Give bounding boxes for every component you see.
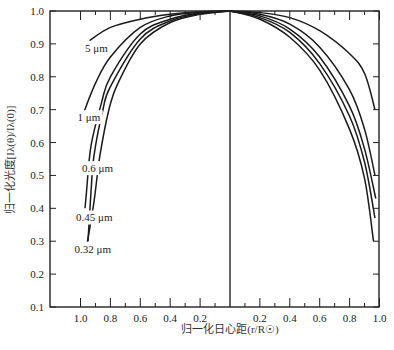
curve-label-group: 0.6 μm [80, 161, 115, 175]
x-tick-label-right: 1.0 [373, 312, 387, 324]
x-tick-label-left: 0.8 [104, 312, 118, 324]
x-tick-label-left: 0.6 [133, 312, 147, 324]
x-axis-title: 归一化日心距(r/R☉) [181, 322, 279, 336]
y-tick-label: 0.1 [30, 301, 44, 313]
x-tick-label-right: 0.6 [313, 312, 327, 324]
y-tick-label: 0.8 [30, 71, 44, 83]
x-tick-label-left: 1.0 [74, 312, 88, 324]
curve-right-0 [230, 11, 375, 110]
x-tick-label-right: 0.4 [283, 312, 297, 324]
y-axis-title: 归一化光度[Iλ(θ)/Iλ(0)] [3, 106, 17, 215]
y-tick-label: 0.3 [30, 235, 44, 247]
y-tick-label: 0.6 [30, 137, 44, 149]
curve-label: 0.45 μm [76, 211, 113, 223]
curve-label: 0.6 μm [82, 162, 113, 174]
y-tick-label: 1.0 [30, 5, 44, 17]
y-tick-label: 0.5 [30, 169, 44, 181]
curve-labels-layer: 5 μm1 μm0.6 μm0.45 μm0.32 μm [73, 41, 116, 256]
y-tick-label: 0.4 [30, 202, 44, 214]
y-tick-label: 0.9 [30, 38, 44, 50]
curve-label-group: 5 μm [83, 41, 110, 55]
y-tick-label: 0.7 [30, 104, 44, 116]
curve-right-4 [230, 11, 374, 241]
x-tick-label-left: 0.4 [163, 312, 177, 324]
curve-label: 5 μm [85, 42, 108, 54]
curve-label-group: 0.32 μm [73, 242, 114, 256]
y-tick-label: 0.2 [30, 268, 44, 280]
curve-right-1 [230, 11, 375, 175]
curve-label-group: 0.45 μm [74, 210, 115, 224]
curve-label: 1 μm [78, 111, 101, 123]
curve-label-group: 1 μm [76, 110, 103, 124]
curve-label: 0.32 μm [75, 243, 112, 255]
curve-right-2 [230, 11, 376, 199]
limb-darkening-chart: 5 μm1 μm0.6 μm0.45 μm0.32 μm 1.00.90.80.… [0, 0, 394, 350]
curve-left-2 [85, 11, 230, 208]
x-tick-label-right: 0.8 [343, 312, 357, 324]
